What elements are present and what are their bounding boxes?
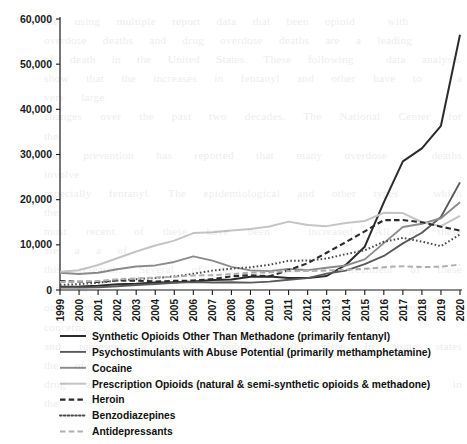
x-tick-label: 2014 bbox=[341, 299, 352, 322]
y-axis-ticks: 010,00020,00030,00040,00050,00060,000 bbox=[20, 13, 60, 296]
legend-item-label[interactable]: Benzodiazepines bbox=[92, 410, 176, 421]
x-tick-label: 2005 bbox=[169, 299, 180, 322]
x-tick-label: 2018 bbox=[417, 299, 428, 322]
y-tick-label: 60,000 bbox=[20, 13, 52, 25]
y-tick-label: 0 bbox=[46, 284, 52, 296]
legend-item-label[interactable]: Synthetic Opioids Other Than Methadone (… bbox=[92, 331, 390, 342]
y-tick-label: 40,000 bbox=[20, 103, 52, 115]
x-tick-label: 2020 bbox=[455, 299, 466, 322]
y-tick-label: 10,000 bbox=[20, 238, 52, 250]
x-tick-label: 2010 bbox=[264, 299, 275, 322]
x-tick-label: 2009 bbox=[245, 299, 256, 322]
chart-legend: Synthetic Opioids Other Than Methadone (… bbox=[60, 331, 431, 437]
legend-item-label[interactable]: Heroin bbox=[92, 394, 125, 405]
x-tick-label: 2013 bbox=[321, 299, 332, 322]
x-tick-label: 2000 bbox=[74, 299, 85, 322]
y-tick-label: 20,000 bbox=[20, 193, 52, 205]
series-lines-layer bbox=[60, 35, 460, 288]
x-tick-label: 2019 bbox=[436, 299, 447, 322]
legend-item-label[interactable]: Psychostimulants with Abuse Potential (p… bbox=[92, 347, 431, 358]
x-tick-label: 1999 bbox=[55, 299, 66, 322]
x-tick-label: 2017 bbox=[398, 299, 409, 322]
x-tick-label: 2006 bbox=[188, 299, 199, 322]
x-tick-label: 2004 bbox=[150, 299, 161, 322]
x-tick-label: 2015 bbox=[360, 299, 371, 322]
legend-item-label[interactable]: Prescription Opioids (natural & semi-syn… bbox=[92, 379, 430, 390]
x-tick-label: 2002 bbox=[112, 299, 123, 322]
opioid-overdose-deaths-chart: the using multiple report data that been… bbox=[0, 0, 467, 444]
y-tick-label: 50,000 bbox=[20, 58, 52, 70]
series-line bbox=[60, 265, 460, 282]
series-line bbox=[60, 35, 460, 287]
series-line bbox=[60, 213, 460, 272]
x-tick-label: 2008 bbox=[226, 299, 237, 322]
y-tick-label: 30,000 bbox=[20, 148, 52, 160]
x-tick-label: 2011 bbox=[283, 299, 294, 321]
x-tick-label: 2007 bbox=[207, 299, 218, 322]
x-tick-label: 2001 bbox=[93, 299, 104, 322]
x-tick-label: 2012 bbox=[302, 299, 313, 322]
legend-item-label[interactable]: Cocaine bbox=[92, 363, 132, 374]
x-tick-label: 2003 bbox=[131, 299, 142, 322]
x-axis-ticks: 1999200020012002200320042005200620072008… bbox=[55, 290, 466, 321]
x-tick-label: 2016 bbox=[379, 299, 390, 322]
line-chart-svg: 010,00020,00030,00040,00050,00060,000 19… bbox=[0, 0, 467, 444]
legend-item-label[interactable]: Antidepressants bbox=[92, 426, 173, 437]
